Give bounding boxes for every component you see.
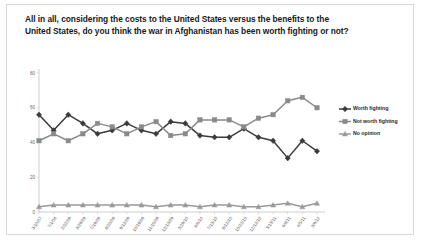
x-axis-tick-label: 2/22/09 xyxy=(60,215,73,230)
x-axis-tick-label: 3/29/09 xyxy=(74,215,87,230)
data-point xyxy=(125,132,129,136)
x-axis-tick-label: 4/5/11 xyxy=(295,215,306,228)
legend-label: Not worth fighting xyxy=(353,118,398,124)
x-axis-tick-label: 3/10/07 xyxy=(31,215,44,230)
x-axis-tick-label: 3/13/11 xyxy=(265,215,278,230)
line-chart: 0204060803/10/077/1/082/22/093/29/097/19… xyxy=(17,63,415,238)
x-axis-tick-label: 8/20/09 xyxy=(104,215,117,230)
x-axis-tick-label: 3/29/10 xyxy=(177,215,190,230)
x-axis-tick-label: 12/13/09 xyxy=(161,215,175,232)
y-axis-tick-label: 80 xyxy=(30,71,36,76)
chart-legend: Worth fightingNot worth fightingNo opini… xyxy=(339,105,398,136)
y-axis-tick-label: 40 xyxy=(30,140,36,145)
data-point xyxy=(315,106,319,110)
x-axis-tick-label: 11/15/09 xyxy=(146,215,160,232)
chart-card: All in all, considering the costs to the… xyxy=(6,4,414,235)
data-point xyxy=(212,134,217,140)
y-axis-tick-label: 20 xyxy=(30,175,36,180)
data-point xyxy=(256,134,261,140)
series-no-opinion xyxy=(37,201,320,209)
x-axis-tick-label: 3/9/12 xyxy=(310,215,321,228)
x-axis-tick-label: 7/1/08 xyxy=(47,215,58,228)
data-point xyxy=(271,113,275,117)
data-point xyxy=(286,99,290,103)
data-point xyxy=(227,118,231,122)
data-point xyxy=(183,132,187,136)
data-point xyxy=(124,121,129,127)
data-point xyxy=(242,125,246,129)
data-point xyxy=(227,134,232,140)
x-axis-tick-label: 12/12/10 xyxy=(249,215,263,232)
x-axis-tick-label: 9/12/09 xyxy=(118,215,131,230)
x-axis-tick-label: 7/19/09 xyxy=(89,215,102,230)
series-not-worth-fighting xyxy=(37,95,319,143)
data-point xyxy=(139,125,143,129)
data-point xyxy=(51,132,55,136)
data-point xyxy=(198,118,202,122)
data-point xyxy=(95,121,99,125)
y-axis-tick-label: 60 xyxy=(30,105,36,110)
data-point xyxy=(256,116,260,120)
x-axis-tick-label: 6/6/10 xyxy=(193,215,204,228)
data-point xyxy=(110,125,114,129)
data-point xyxy=(37,139,41,143)
y-axis-tick-label: 0 xyxy=(32,210,35,215)
legend-label: No opinion xyxy=(353,130,380,136)
x-axis-tick-label: 7/13/10 xyxy=(206,215,219,230)
data-point xyxy=(212,118,216,122)
x-axis-tick-label: 10/19/09 xyxy=(132,215,146,232)
legend-label: Worth fighting xyxy=(353,105,388,111)
series-line xyxy=(39,115,317,158)
page-title: All in all, considering the costs to the… xyxy=(25,13,355,38)
data-point xyxy=(66,139,70,143)
x-axis-tick-label: 8/12/10 xyxy=(221,215,234,230)
legend-marker xyxy=(342,106,347,112)
data-point xyxy=(168,133,172,137)
data-point xyxy=(81,132,85,136)
data-point xyxy=(154,119,158,123)
x-axis-tick-label: 10/22/10 xyxy=(234,215,248,232)
legend-marker xyxy=(343,119,347,123)
chart-plot-area: 0204060803/10/077/1/082/22/093/29/097/19… xyxy=(17,63,415,238)
data-point xyxy=(300,95,304,99)
x-axis-tick-label: 6/9/11 xyxy=(281,215,292,228)
